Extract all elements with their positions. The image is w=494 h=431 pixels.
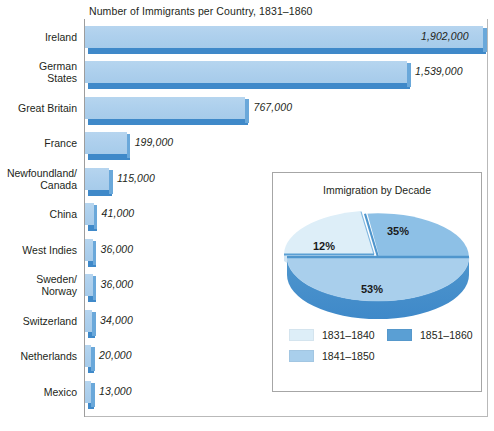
legend-row-2: 1841–1850 — [289, 350, 471, 371]
bar-front-face — [88, 83, 410, 89]
bar-side-face — [245, 99, 249, 123]
bar-side-face — [407, 63, 411, 87]
pie-chart-title: Immigration by Decade — [273, 184, 481, 196]
bar-value-label: 13,000 — [99, 385, 132, 397]
bar-category-label: Ireland — [0, 31, 84, 43]
bar-side-face — [93, 276, 97, 300]
bar-4 — [85, 132, 131, 160]
pie-label-1841-1850: 53% — [361, 283, 383, 295]
bar-front-face — [88, 48, 486, 54]
bar-category-label: China — [0, 208, 84, 220]
bar-category-label: Netherlands — [0, 350, 84, 362]
bar-8 — [85, 274, 97, 302]
bar-top-face — [85, 168, 109, 190]
pie-label-1851-1860: 35% — [387, 225, 409, 237]
bar-top-face — [85, 97, 245, 119]
page-title: Number of Immigrants per Country, 1831–1… — [89, 5, 313, 17]
bar-side-face — [94, 205, 98, 229]
bar-5 — [85, 168, 113, 196]
bar-value-label: 36,000 — [101, 243, 134, 255]
legend-label-1841-1850: 1841–1850 — [322, 350, 375, 362]
bar-side-face — [91, 347, 95, 371]
bar-row: Great Britain767,000 — [0, 97, 494, 125]
bar-top-face — [85, 61, 407, 83]
bar-side-face — [93, 241, 97, 265]
bar-side-face — [109, 170, 113, 194]
legend-item-1851-1860: 1851–1860 — [387, 329, 473, 341]
bar-value-label: 1,539,000 — [415, 65, 463, 77]
bar-value-label: 36,000 — [101, 278, 134, 290]
legend-label-1831-1840: 1831–1840 — [322, 329, 375, 341]
bar-category-label: Sweden/ Norway — [0, 273, 84, 297]
legend-item-1831-1840: 1831–1840 — [289, 329, 375, 341]
bar-category-label: West Indies — [0, 244, 84, 256]
pie-svg — [279, 199, 477, 319]
bar-category-label: German States — [0, 60, 84, 84]
bar-value-label: 20,000 — [99, 349, 132, 361]
bar-value-label: 34,000 — [100, 314, 133, 326]
bar-top-face — [85, 132, 127, 154]
bar-10 — [85, 345, 95, 373]
bar-top-face — [85, 239, 93, 261]
bar-3 — [85, 97, 249, 125]
bar-value-label: 115,000 — [117, 172, 155, 184]
legend-swatch-icon-1831-1840 — [289, 329, 314, 341]
bar-side-face — [483, 28, 487, 52]
pie-label-1831-1840: 12% — [313, 240, 335, 252]
bar-category-label: France — [0, 137, 84, 149]
legend-swatch-icon-1851-1860 — [387, 329, 412, 341]
bar-category-label: Mexico — [0, 386, 84, 398]
bar-front-face — [88, 119, 248, 125]
bar-9 — [85, 310, 96, 338]
legend-swatch-icon-1841-1850 — [289, 350, 314, 362]
bar-side-face — [92, 312, 96, 336]
bar-row: Ireland1,902,000 — [0, 26, 494, 54]
pie-chart: 35% 12% 53% — [279, 199, 477, 319]
bar-category-label: Switzerland — [0, 315, 84, 327]
bar-top-face — [85, 274, 93, 296]
bar-value-label: 1,902,000 — [421, 30, 469, 42]
bar-front-face — [88, 154, 130, 160]
bar-6 — [85, 203, 98, 231]
bar-row: German States1,539,000 — [0, 61, 494, 89]
bar-row: France199,000 — [0, 132, 494, 160]
bar-top-face — [85, 203, 94, 225]
bar-7 — [85, 239, 97, 267]
bar-2 — [85, 61, 411, 89]
pie-slice-1851-1860-top — [365, 213, 469, 257]
bar-top-face — [85, 310, 92, 332]
bar-value-label: 767,000 — [253, 101, 292, 113]
legend-row-1: 1831–1840 1851–1860 — [289, 329, 471, 350]
legend-label-1851-1860: 1851–1860 — [420, 329, 473, 341]
bar-side-face — [127, 134, 131, 158]
bar-category-label: Newfoundland/ Canada — [0, 167, 84, 191]
pie-inset-panel: Immigration by Decade — [272, 172, 482, 392]
pie-legend: 1831–1840 1851–1860 1841–1850 — [289, 329, 471, 371]
bar-value-label: 41,000 — [102, 207, 135, 219]
bar-value-label: 199,000 — [135, 136, 174, 148]
bar-side-face — [91, 383, 95, 407]
bar-category-label: Great Britain — [0, 102, 84, 114]
legend-item-1841-1850: 1841–1850 — [289, 350, 375, 362]
immigration-chart-figure: Number of Immigrants per Country, 1831–1… — [0, 0, 494, 431]
bar-11 — [85, 381, 95, 409]
